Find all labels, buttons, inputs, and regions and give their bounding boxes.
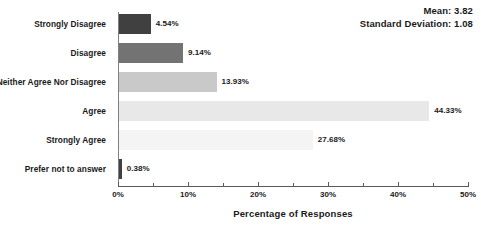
survey-bar-chart: Mean: 3.82 Standard Deviation: 1.08 Stro… (0, 0, 481, 231)
bar (119, 72, 217, 92)
x-axis-minor-tick (293, 183, 294, 187)
x-axis-tick-label: 0% (112, 190, 124, 199)
category-label: Prefer not to answer (25, 159, 106, 179)
category-axis-labels: Strongly DisagreeDisagreeNeither Agree N… (0, 12, 112, 186)
bar (119, 101, 429, 121)
x-axis-major-tick (258, 182, 259, 187)
x-axis-major-tick (398, 182, 399, 187)
x-axis-major-tick (188, 182, 189, 187)
x-axis-tick-label: 40% (390, 190, 406, 199)
x-axis-tick-label: 10% (180, 190, 196, 199)
bar-value-label: 44.33% (434, 101, 461, 121)
bar (119, 159, 122, 179)
bar (119, 130, 313, 150)
x-axis-minor-tick (223, 183, 224, 187)
category-label: Strongly Agree (46, 130, 106, 150)
plot-area: 4.54%9.14%13.93%44.33%27.68%0.38% (118, 12, 468, 186)
bar-value-label: 13.93% (222, 72, 249, 92)
x-axis-minor-tick (153, 183, 154, 187)
x-axis-tick-label: 20% (250, 190, 266, 199)
x-axis-major-tick (468, 182, 469, 187)
bar (119, 43, 183, 63)
x-axis-tick-label: 30% (320, 190, 336, 199)
x-axis-major-tick (118, 182, 119, 187)
category-label: Disagree (71, 43, 106, 63)
x-axis-title: Percentage of Responses (118, 208, 468, 219)
bar-value-label: 27.68% (318, 130, 345, 150)
x-axis-major-tick (328, 182, 329, 187)
x-axis-tick-label: 50% (460, 190, 476, 199)
category-label: Neither Agree Nor Disagree (0, 72, 106, 92)
bar-value-label: 4.54% (156, 14, 179, 34)
bar (119, 14, 151, 34)
x-axis-minor-tick (433, 183, 434, 187)
category-label: Strongly Disagree (34, 14, 106, 34)
x-axis-line (118, 186, 468, 187)
bar-value-label: 0.38% (127, 159, 150, 179)
x-axis-minor-tick (363, 183, 364, 187)
category-label: Agree (82, 101, 106, 121)
x-axis-tick-labels: 0%10%20%30%40%50% (0, 190, 481, 204)
bar-value-label: 9.14% (188, 43, 211, 63)
